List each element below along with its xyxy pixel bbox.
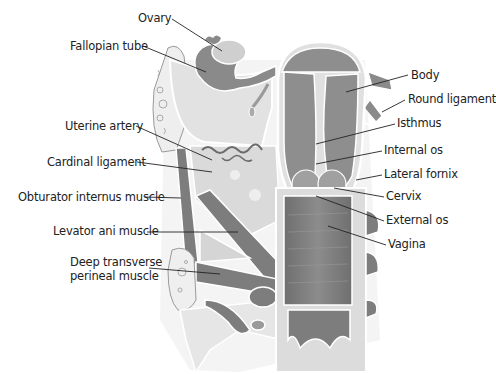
label-levator-ani-muscle: Levator ani muscle — [53, 225, 159, 238]
label-deep-transverse-perineal-muscle-line2: perineal muscle — [70, 270, 159, 283]
pelvic-anatomy-diagram: Ovary Fallopian tube Uterine artery Card… — [0, 0, 496, 374]
label-body: Body — [411, 69, 439, 82]
label-fallopian-tube: Fallopian tube — [70, 40, 148, 53]
label-obturator-internus-muscle: Obturator internus muscle — [18, 191, 165, 204]
label-cervix: Cervix — [386, 190, 421, 203]
label-cardinal-ligament: Cardinal ligament — [47, 156, 146, 169]
label-isthmus: Isthmus — [397, 117, 441, 130]
label-external-os: External os — [386, 214, 448, 227]
vagina-shape — [284, 196, 352, 305]
label-round-ligament: Round ligament — [408, 93, 496, 106]
label-deep-transverse-perineal-muscle-line1: Deep transverse — [70, 256, 162, 269]
label-internal-os: Internal os — [384, 144, 443, 157]
label-vagina: Vagina — [388, 238, 426, 251]
label-ovary: Ovary — [138, 12, 171, 25]
anatomy-illustration — [0, 0, 496, 374]
label-lateral-fornix: Lateral fornix — [384, 168, 458, 181]
label-uterine-artery: Uterine artery — [65, 120, 143, 133]
ovary-shape — [212, 40, 246, 64]
